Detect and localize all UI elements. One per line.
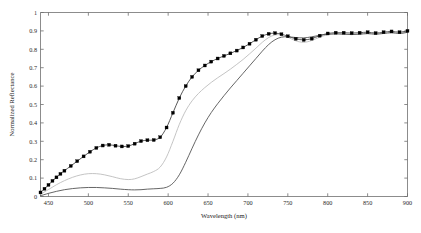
data-point-marker <box>248 42 251 45</box>
data-point-marker <box>184 85 187 88</box>
data-point-marker <box>382 31 385 34</box>
data-point-marker <box>242 46 245 49</box>
x-tick-label: 650 <box>203 199 212 206</box>
y-tick-label: 0.4 <box>29 119 37 126</box>
data-point-marker <box>63 169 66 172</box>
data-point-marker <box>318 34 321 37</box>
data-point-marker <box>88 150 91 153</box>
data-point-marker <box>159 136 162 139</box>
data-point-marker <box>254 38 257 41</box>
data-point-marker <box>108 143 111 146</box>
y-tick-label: 0.3 <box>29 138 37 145</box>
data-point-marker <box>69 164 72 167</box>
data-point-marker <box>152 139 155 142</box>
data-point-marker <box>358 31 361 34</box>
data-point-marker <box>350 32 353 35</box>
y-axis-title: Normalized Reflectance <box>8 72 15 136</box>
y-tick-label: 0.5 <box>29 101 37 108</box>
data-point-marker <box>140 140 143 143</box>
y-tick-label: 1 <box>34 9 37 16</box>
data-point-marker <box>171 111 174 114</box>
data-point-marker <box>374 32 377 35</box>
data-point-marker <box>76 160 79 163</box>
x-tickmarks <box>48 13 407 197</box>
x-tick-label: 800 <box>323 199 332 206</box>
data-point-marker <box>51 179 54 182</box>
data-point-marker <box>165 126 168 129</box>
data-point-marker <box>342 31 345 34</box>
x-tick-label: 700 <box>243 199 252 206</box>
data-point-marker <box>310 37 313 40</box>
data-point-marker <box>216 57 219 60</box>
data-point-marker <box>366 31 369 34</box>
data-point-marker <box>390 30 393 33</box>
data-point-marker <box>146 139 149 142</box>
x-tick-label: 750 <box>283 199 292 206</box>
y-tick-label: 0 <box>34 193 37 200</box>
y-tick-label: 0.2 <box>29 156 37 163</box>
x-tick-labels: 450500550600650700750800850900 <box>44 199 412 206</box>
data-point-marker <box>261 35 264 38</box>
data-point-marker <box>274 32 277 35</box>
data-point-marker <box>114 144 117 147</box>
y-tick-label: 0.7 <box>29 64 37 71</box>
x-tick-label: 500 <box>84 199 93 206</box>
data-point-marker <box>302 38 305 41</box>
data-point-marker <box>191 75 194 78</box>
data-point-marker <box>47 183 50 186</box>
data-point-marker <box>398 31 401 34</box>
data-point-marker <box>39 191 42 194</box>
y-tick-label: 0.8 <box>29 46 37 53</box>
x-tick-label: 600 <box>164 199 173 206</box>
data-point-marker <box>120 145 123 148</box>
x-tick-label: 450 <box>44 199 53 206</box>
data-point-marker <box>235 49 238 52</box>
x-tick-label: 850 <box>363 199 372 206</box>
y-tickmarks <box>41 13 408 197</box>
y-tick-labels: 00.10.20.30.40.50.60.70.80.91 <box>29 9 37 200</box>
data-markers <box>39 29 409 194</box>
data-point-marker <box>59 172 62 175</box>
x-tick-label: 550 <box>124 199 133 206</box>
x-axis-title: Wavelength (nm) <box>201 212 247 220</box>
data-point-marker <box>203 64 206 67</box>
data-point-marker <box>229 52 232 55</box>
data-point-marker <box>210 60 213 63</box>
data-point-marker <box>55 176 58 179</box>
data-point-marker <box>280 33 283 36</box>
data-point-marker <box>95 146 98 149</box>
data-point-marker <box>286 35 289 38</box>
plot-frame <box>41 13 408 197</box>
data-point-marker <box>267 32 270 35</box>
data-point-marker <box>178 97 181 100</box>
data-point-marker <box>223 54 226 57</box>
data-point-marker <box>133 142 136 145</box>
x-tick-label: 900 <box>403 199 412 206</box>
data-point-marker <box>197 69 200 72</box>
y-tick-label: 0.6 <box>29 82 37 89</box>
data-point-marker <box>326 32 329 35</box>
data-point-marker <box>43 187 46 190</box>
data-point-marker <box>82 155 85 158</box>
data-point-marker <box>406 29 409 32</box>
y-tick-label: 0.1 <box>29 174 37 181</box>
y-tick-label: 0.9 <box>29 27 37 34</box>
data-point-marker <box>127 145 130 148</box>
data-point-marker <box>294 37 297 40</box>
data-point-marker <box>334 31 337 34</box>
figure-spectral-reflectance: 450500550600650700750800850900 00.10.20.… <box>0 0 421 233</box>
plot-canvas: 450500550600650700750800850900 00.10.20.… <box>0 0 421 233</box>
data-point-marker <box>101 144 104 147</box>
